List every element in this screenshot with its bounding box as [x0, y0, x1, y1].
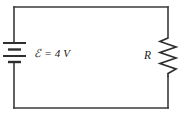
- resistor-label: R: [144, 50, 151, 62]
- battery-emf-label: ℰ = 4 V: [34, 48, 70, 59]
- circuit-schematic-svg: [0, 0, 182, 119]
- circuit-diagram-figure: ℰ = 4 V R: [0, 0, 182, 119]
- emf-label-text: ℰ = 4 V: [34, 47, 70, 59]
- resistor-zigzag: [160, 38, 176, 77]
